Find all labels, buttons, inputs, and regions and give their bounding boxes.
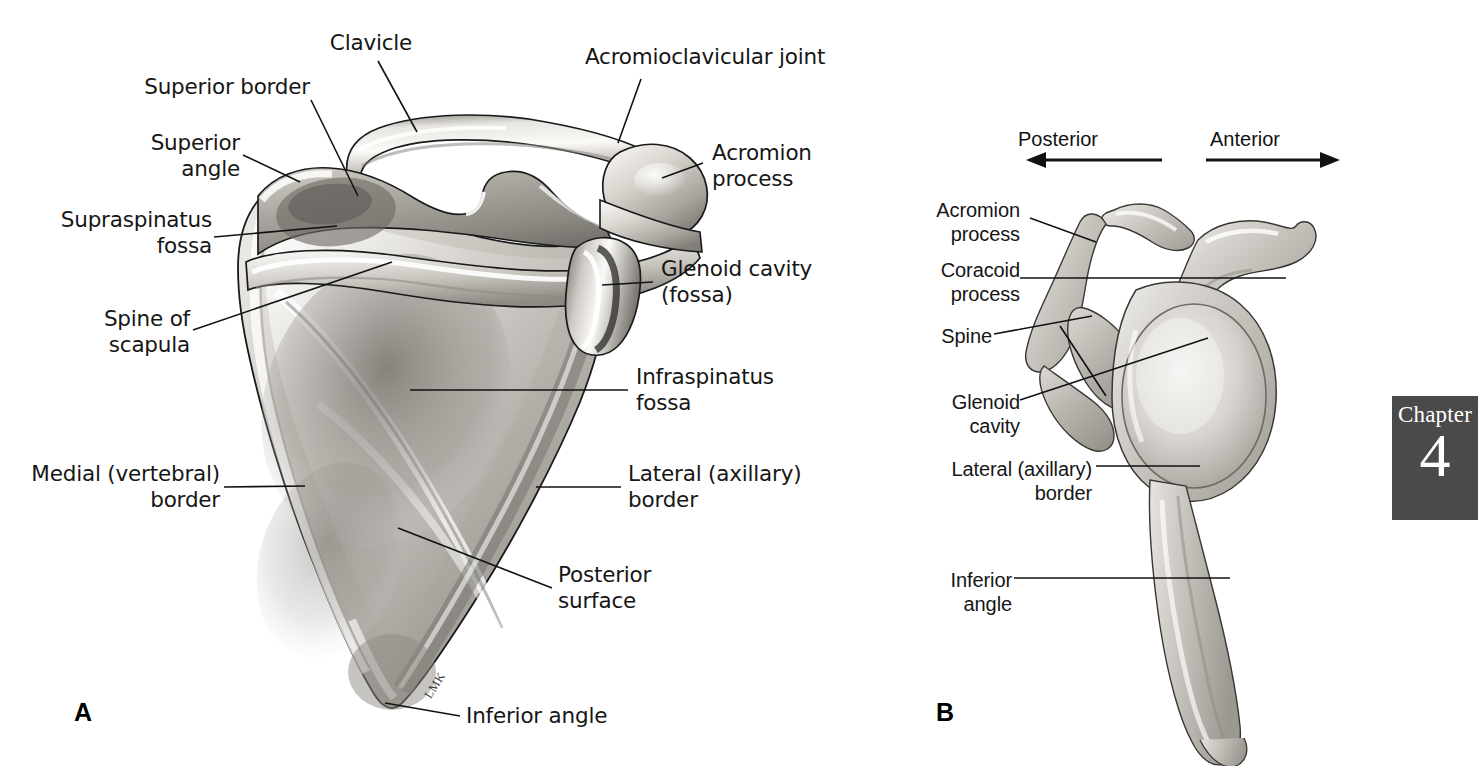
leader-superior-angle bbox=[243, 155, 300, 182]
label-inferior-angle-b: Inferior angle bbox=[890, 568, 1012, 616]
leader-acromioclavicular bbox=[618, 79, 641, 143]
leader-medial-border bbox=[224, 486, 305, 487]
label-glenoid-cavity: Glenoid cavity (fossa) bbox=[661, 256, 881, 308]
label-superior-angle: Superior angle bbox=[60, 130, 240, 182]
posterior-arrow bbox=[1026, 152, 1162, 168]
label-acromion-process: Acromion process bbox=[712, 140, 892, 192]
label-spine-b: Spine bbox=[890, 324, 992, 348]
glenoid-cavity-bone bbox=[566, 238, 641, 356]
label-clavicle: Clavicle bbox=[276, 30, 466, 56]
panel-a-letter: A bbox=[74, 698, 92, 727]
label-posterior-surface: Posterior surface bbox=[558, 562, 748, 614]
glenoid-cavity-bone-b bbox=[1112, 282, 1276, 502]
label-coracoid-process-b: Coracoid process bbox=[890, 258, 1020, 306]
label-glenoid-cavity-b: Glenoid cavity bbox=[890, 390, 1020, 438]
lateral-border-bone-b bbox=[1149, 480, 1246, 766]
label-lateral-border-b: Lateral (axillary) border bbox=[890, 457, 1092, 505]
chapter-number: 4 bbox=[1392, 424, 1478, 486]
anatomy-figure: Clavicle Acromioclavicular joint Superio… bbox=[0, 0, 1478, 766]
label-spine-of-scapula: Spine of scapula bbox=[24, 306, 190, 358]
panel-b: Posterior Anterior bbox=[900, 0, 1370, 766]
panel-b-letter: B bbox=[936, 698, 954, 727]
leader-clavicle bbox=[378, 61, 417, 132]
label-acromioclavicular-joint: Acromioclavicular joint bbox=[560, 44, 850, 70]
label-inferior-angle: Inferior angle bbox=[466, 703, 696, 729]
label-medial-vertebral-border: Medial (vertebral) border bbox=[10, 461, 220, 513]
label-infraspinatus-fossa: Infraspinatus fossa bbox=[636, 364, 856, 416]
label-lateral-axillary-border: Lateral (axillary) border bbox=[628, 461, 858, 513]
label-acromion-process-b: Acromion process bbox=[890, 198, 1020, 246]
acromion-process-bone bbox=[600, 144, 707, 252]
anterior-arrow bbox=[1206, 152, 1340, 168]
label-superior-border: Superior border bbox=[70, 74, 310, 100]
panel-a: Clavicle Acromioclavicular joint Superio… bbox=[0, 0, 900, 766]
chapter-tab: Chapter 4 bbox=[1392, 396, 1478, 520]
label-supraspinatus-fossa: Supraspinatus fossa bbox=[40, 207, 212, 259]
